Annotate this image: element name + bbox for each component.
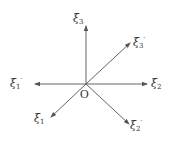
axis-label-xi3-prime: ξ3′ [133,37,145,50]
axis-label-xi1-prime: ξ1′ [10,78,22,91]
origin-label: O [80,88,89,100]
axis-arrow-xi3p [86,43,130,84]
axis-prime: ′ [141,119,143,127]
axis-subscript: 3 [79,18,83,26]
axes-diagram [0,0,169,150]
axis-prime: ′ [144,36,146,44]
axis-arrow-xi2p [86,84,129,124]
axis-label-xi2: ξ2 [151,78,162,91]
axis-label-xi3: ξ3 [73,13,84,26]
axis-label-xi2-prime: ξ2′ [130,120,142,133]
axis-subscript: 2 [157,83,161,91]
axis-label-xi1: ξ1 [34,113,45,126]
axis-prime: ′ [21,77,23,85]
axis-subscript: 1 [40,118,44,126]
